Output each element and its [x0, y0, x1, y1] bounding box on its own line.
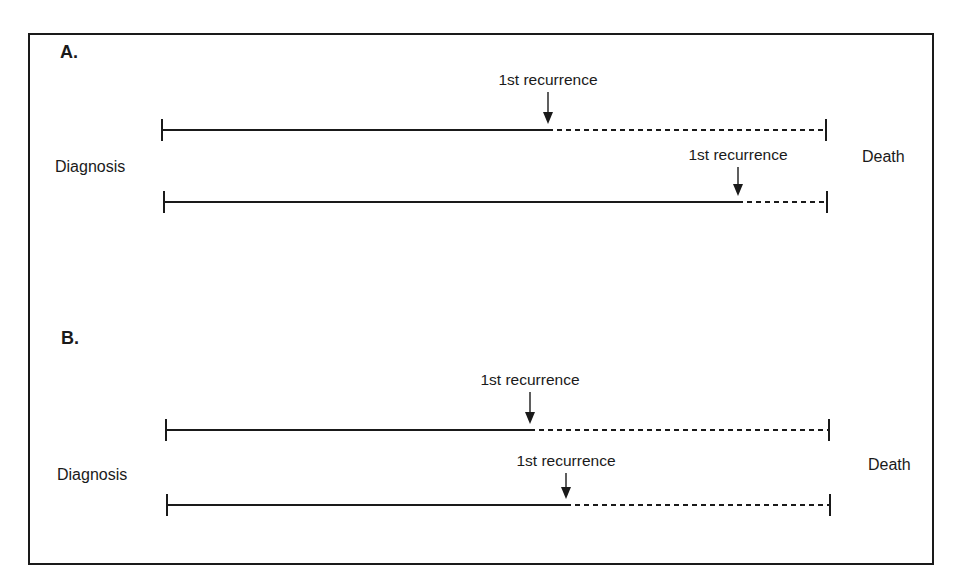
panel-a-timeline-1-down-arrow-icon [543, 112, 553, 124]
panel-b-timeline-1-down-arrow-icon [525, 412, 535, 424]
panel-b-timeline-2-down-arrow-icon [561, 487, 571, 499]
panel-a-timeline-2-down-arrow-icon [733, 184, 743, 196]
timeline-drawing [0, 0, 963, 587]
